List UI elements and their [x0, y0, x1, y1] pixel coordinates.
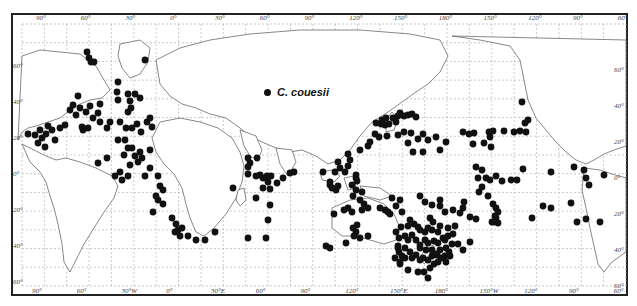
occurrence-dot	[212, 229, 219, 236]
top-longitude-label: 30°	[124, 14, 135, 22]
occurrence-dot	[437, 147, 444, 154]
occurrence-dot	[461, 199, 468, 206]
occurrence-dot	[433, 134, 440, 141]
occurrence-dot	[425, 137, 432, 144]
occurrence-dot	[347, 157, 354, 164]
occurrence-dot	[335, 183, 342, 190]
occurrence-dot	[437, 197, 444, 204]
occurrence-dot	[323, 243, 330, 250]
occurrence-dot	[417, 193, 424, 200]
occurrence-dot	[583, 216, 590, 223]
occurrence-dot	[142, 57, 149, 64]
occurrence-dot	[350, 225, 357, 232]
occurrence-dot	[421, 269, 428, 276]
occurrence-dot	[35, 140, 42, 147]
occurrence-dot	[415, 136, 422, 143]
occurrence-dot	[450, 207, 457, 214]
occurrence-dot	[202, 237, 209, 244]
occurrence-dot	[476, 189, 483, 196]
occurrence-dot	[350, 193, 357, 200]
top-longitude-label: 90°	[304, 14, 314, 22]
occurrence-dot	[487, 177, 494, 184]
occurrence-dot	[179, 225, 186, 232]
occurrence-dot	[396, 235, 403, 242]
occurrence-dot	[473, 164, 480, 171]
occurrence-dot	[45, 123, 52, 130]
occurrence-dot	[460, 129, 467, 136]
occurrence-dot	[335, 159, 342, 166]
occurrence-dot	[471, 130, 478, 137]
bottom-longitude-label: 90°	[569, 287, 579, 295]
occurrence-dot	[104, 155, 111, 162]
top-longitude-label: 120°	[528, 14, 542, 22]
occurrence-dot	[511, 129, 518, 136]
top-longitude-label: 0°	[170, 14, 177, 22]
top-longitude-label: 30°	[214, 14, 225, 22]
occurrence-dot	[452, 223, 459, 230]
right-latitude-label: 0°	[614, 174, 621, 182]
occurrence-dot	[499, 178, 506, 185]
occurrence-dot	[112, 173, 119, 180]
bottom-longitude-label: 60°	[77, 287, 87, 295]
occurrence-dot	[267, 202, 274, 209]
occurrence-dot	[393, 203, 400, 210]
occurrence-dot	[149, 124, 156, 131]
occurrence-dot	[245, 164, 252, 171]
occurrence-dot	[331, 211, 338, 218]
occurrence-dot	[384, 133, 391, 140]
occurrence-dot	[134, 121, 141, 128]
occurrence-dot	[514, 177, 521, 184]
occurrence-dot	[491, 219, 498, 226]
occurrence-dot	[467, 214, 474, 221]
occurrence-dot	[95, 160, 102, 167]
occurrence-dot	[132, 153, 139, 160]
occurrence-dot	[427, 215, 434, 222]
bottom-longitude-label: 30°E	[210, 287, 226, 295]
occurrence-dot	[490, 128, 497, 135]
occurrence-dot	[91, 59, 98, 66]
occurrence-dot	[291, 169, 298, 176]
occurrence-dot	[107, 119, 114, 126]
occurrence-dot	[445, 225, 452, 232]
occurrence-dot	[169, 215, 176, 222]
occurrence-dot	[425, 275, 432, 282]
occurrence-dot	[353, 187, 360, 194]
occurrence-dot	[481, 140, 488, 147]
occurrence-dot	[529, 215, 536, 222]
occurrence-dot	[353, 172, 360, 179]
occurrence-dot	[42, 144, 49, 151]
occurrence-dot	[32, 132, 39, 139]
occurrence-dot	[37, 127, 44, 134]
occurrence-dot	[423, 247, 430, 254]
occurrence-dot	[415, 269, 422, 276]
occurrence-dot	[245, 171, 252, 178]
occurrence-dot	[420, 131, 427, 138]
occurrence-dot	[265, 179, 272, 186]
occurrence-dot	[437, 223, 444, 230]
occurrence-dot	[443, 139, 450, 146]
occurrence-dot	[75, 93, 82, 100]
occurrence-dot	[87, 103, 94, 110]
occurrence-dot	[160, 201, 167, 208]
occurrence-dot	[422, 199, 429, 206]
occurrence-dot	[125, 109, 132, 116]
coastlines	[18, 30, 626, 272]
occurrence-dot	[425, 240, 432, 247]
occurrence-dot	[245, 235, 252, 242]
occurrence-dot	[470, 141, 477, 148]
occurrence-dot	[123, 125, 130, 132]
occurrence-dot	[155, 173, 162, 180]
bottom-longitude-label: 30°W	[120, 287, 138, 295]
legend: C. couesii	[264, 86, 329, 98]
occurrence-dot	[173, 221, 180, 228]
occurrence-dot	[407, 249, 414, 256]
right-latitude-label: 60°	[614, 282, 624, 290]
occurrence-dot	[119, 177, 126, 184]
occurrence-dot	[137, 95, 144, 102]
occurrence-dot	[442, 209, 449, 216]
occurrence-dot	[95, 110, 102, 117]
occurrence-dot	[420, 149, 427, 156]
occurrence-dot	[343, 240, 350, 247]
occurrence-dot	[357, 235, 364, 242]
occurrence-dot	[127, 98, 134, 105]
